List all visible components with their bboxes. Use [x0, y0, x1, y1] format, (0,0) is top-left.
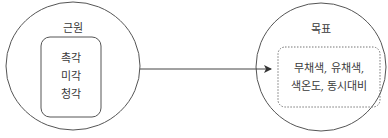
- target-inner-box: [278, 47, 380, 107]
- source-item-taste: 미각: [53, 70, 89, 84]
- source-item-touch: 촉각: [53, 52, 89, 66]
- target-line-1: 무채색, 유채색,: [280, 62, 378, 76]
- source-item-hearing: 청각: [53, 88, 89, 102]
- source-title: 근원: [56, 22, 90, 36]
- target-title: 목표: [304, 23, 338, 37]
- target-line-2: 색온도, 동시대비: [280, 80, 378, 94]
